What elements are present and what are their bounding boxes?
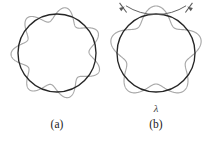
panel-caption-a: (a) (51, 118, 64, 131)
figure-container: (a) λ (b) (0, 0, 212, 141)
standing-wave-orbit-diagram: (a) λ (b) (0, 0, 212, 141)
figure-background (0, 0, 212, 141)
panel-caption-b: (b) (149, 118, 163, 131)
wavelength-symbol-label: λ (153, 103, 159, 114)
